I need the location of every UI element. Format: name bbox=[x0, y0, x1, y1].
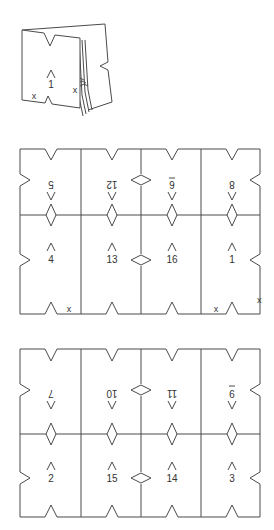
page-number: 13 bbox=[106, 254, 118, 265]
page-number: 15 bbox=[106, 473, 118, 484]
folded-booklet: 1 x x bbox=[22, 24, 112, 116]
x-mark: x bbox=[67, 304, 72, 314]
up-arrow-icon bbox=[108, 243, 116, 251]
booklet-page-number: 1 bbox=[48, 79, 54, 90]
page-number: 1 bbox=[229, 254, 235, 265]
page-number: 10 bbox=[106, 388, 118, 399]
up-arrow-icon bbox=[228, 243, 236, 251]
page-panel: 1 bbox=[228, 243, 236, 265]
page-panel: 13 bbox=[106, 243, 118, 265]
page-number: 4 bbox=[48, 254, 54, 265]
folding-diagram: 1 x x 5 12 6 bbox=[0, 0, 274, 530]
page-number: 16 bbox=[166, 254, 178, 265]
page-panel: 9 bbox=[228, 386, 236, 409]
down-arrow-icon bbox=[47, 192, 55, 200]
page-panel: 3 bbox=[228, 462, 236, 484]
diamond-marker bbox=[107, 204, 117, 226]
x-mark: x bbox=[257, 295, 262, 305]
page-number: 2 bbox=[48, 473, 54, 484]
diamond-marker bbox=[227, 423, 237, 445]
page-number: 12 bbox=[106, 179, 118, 190]
down-arrow-icon bbox=[228, 401, 236, 409]
diamond-marker bbox=[131, 255, 151, 265]
diamond-marker bbox=[107, 423, 117, 445]
up-arrow-icon bbox=[108, 462, 116, 470]
x-mark: x bbox=[214, 304, 219, 314]
down-arrow-icon bbox=[108, 401, 116, 409]
down-arrow-icon bbox=[228, 192, 236, 200]
down-arrow-icon bbox=[47, 401, 55, 409]
page-number: 7 bbox=[48, 388, 54, 399]
up-arrow-icon bbox=[47, 243, 55, 251]
diamond-marker bbox=[46, 204, 56, 226]
up-arrow-icon bbox=[228, 462, 236, 470]
imposition-sheet-a: 5 12 6 8 4 13 16 1 bbox=[20, 149, 262, 314]
diamond-marker bbox=[131, 385, 151, 395]
imposition-sheet-b: 7 10 11 9 2 15 14 3 bbox=[20, 349, 260, 517]
up-arrow-icon bbox=[168, 243, 176, 251]
page-number: 11 bbox=[166, 388, 177, 399]
diamond-marker bbox=[167, 423, 177, 445]
page-panel: 7 bbox=[47, 388, 55, 409]
page-panel: 4 bbox=[47, 243, 55, 265]
page-panel: 2 bbox=[47, 462, 55, 484]
page-panel: 15 bbox=[106, 462, 118, 484]
diamond-marker bbox=[131, 473, 151, 483]
page-number: 5 bbox=[48, 179, 54, 190]
page-panel: 14 bbox=[166, 462, 178, 484]
page-number: 9 bbox=[229, 388, 235, 399]
page-panel: 5 bbox=[47, 179, 55, 200]
sheet-outline bbox=[20, 149, 260, 314]
up-arrow-icon bbox=[168, 462, 176, 470]
page-number: 3 bbox=[229, 473, 235, 484]
diamond-marker bbox=[131, 175, 151, 185]
diamond-marker bbox=[167, 204, 177, 226]
page-panel: 10 bbox=[106, 388, 118, 409]
down-arrow-icon bbox=[168, 192, 176, 200]
down-arrow-icon bbox=[168, 401, 176, 409]
page-panel: 16 bbox=[166, 243, 178, 265]
page-number: 6 bbox=[169, 179, 175, 190]
down-arrow-icon bbox=[108, 192, 116, 200]
diamond-marker bbox=[46, 423, 56, 445]
x-mark: x bbox=[32, 91, 37, 101]
page-panel: 6 bbox=[168, 178, 176, 200]
page-panel: 11 bbox=[166, 388, 177, 409]
page-panel: 12 bbox=[106, 179, 118, 200]
up-arrow-icon bbox=[47, 462, 55, 470]
x-mark: x bbox=[73, 85, 78, 95]
page-panel: 8 bbox=[228, 179, 236, 200]
page-number: 14 bbox=[166, 473, 178, 484]
page-number: 8 bbox=[229, 179, 235, 190]
diamond-marker bbox=[227, 204, 237, 226]
